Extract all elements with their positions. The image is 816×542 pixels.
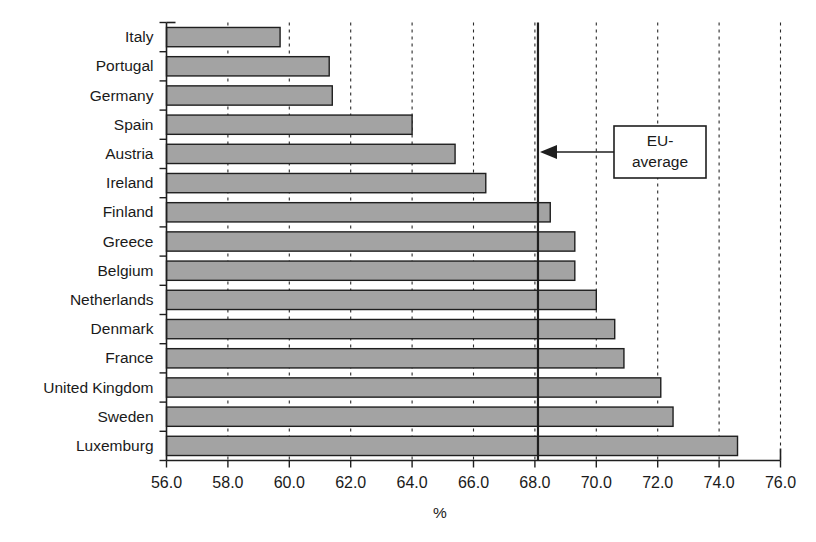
bar [167, 115, 413, 134]
category-label: Greece [103, 233, 154, 250]
bar [167, 319, 615, 338]
category-label: France [105, 349, 153, 366]
category-label: Italy [125, 28, 154, 45]
category-label: Netherlands [70, 291, 154, 308]
category-label: Spain [114, 116, 154, 133]
x-tick-label: 70.0 [581, 474, 612, 491]
x-tick-label: 60.0 [274, 474, 305, 491]
bar [167, 203, 551, 222]
bar [167, 436, 738, 455]
category-label: Denmark [91, 320, 154, 337]
callout-label-line-1: EU- [647, 132, 674, 149]
x-tick-label: 72.0 [642, 474, 673, 491]
bar [167, 57, 330, 76]
bar [167, 86, 333, 105]
bar [167, 378, 661, 397]
bar-chart-figure: ItalyPortugalGermanySpainAustriaIrelandF… [0, 0, 816, 542]
category-labels-group: ItalyPortugalGermanySpainAustriaIrelandF… [43, 28, 154, 454]
category-label: Sweden [97, 408, 153, 425]
x-tick-label: 62.0 [335, 474, 366, 491]
bar [167, 27, 281, 46]
bar [167, 144, 456, 163]
callout-label-line-2: average [632, 153, 688, 170]
eu-average-callout: EU-average [540, 126, 706, 178]
bar [167, 290, 597, 309]
category-label: Luxemburg [76, 437, 154, 454]
category-label: United Kingdom [43, 379, 153, 396]
callout-arrow-head [540, 145, 557, 159]
x-tick-label: 58.0 [212, 474, 243, 491]
bar [167, 261, 575, 280]
x-tick-label: 64.0 [397, 474, 428, 491]
bar [167, 232, 575, 251]
category-label: Austria [105, 145, 154, 162]
bar [167, 407, 674, 426]
x-axis-title: % [433, 504, 447, 521]
y-tickmarks-group [160, 23, 167, 461]
category-label: Belgium [98, 262, 154, 279]
category-label: Ireland [106, 174, 153, 191]
x-tick-label: 68.0 [519, 474, 550, 491]
category-label: Portugal [96, 57, 154, 74]
bar [167, 173, 486, 192]
x-tick-label: 66.0 [458, 474, 489, 491]
bars-group [167, 27, 738, 455]
x-tick-label: 76.0 [765, 474, 796, 491]
bar [167, 349, 624, 368]
x-tick-label: 74.0 [704, 474, 735, 491]
x-tickmarks-group [167, 461, 781, 468]
chart-canvas: ItalyPortugalGermanySpainAustriaIrelandF… [0, 0, 816, 542]
x-tick-labels-group: 56.058.060.062.064.066.068.070.072.074.0… [151, 474, 796, 491]
x-tick-label: 56.0 [151, 474, 182, 491]
category-label: Germany [90, 87, 154, 104]
category-label: Finland [103, 203, 154, 220]
